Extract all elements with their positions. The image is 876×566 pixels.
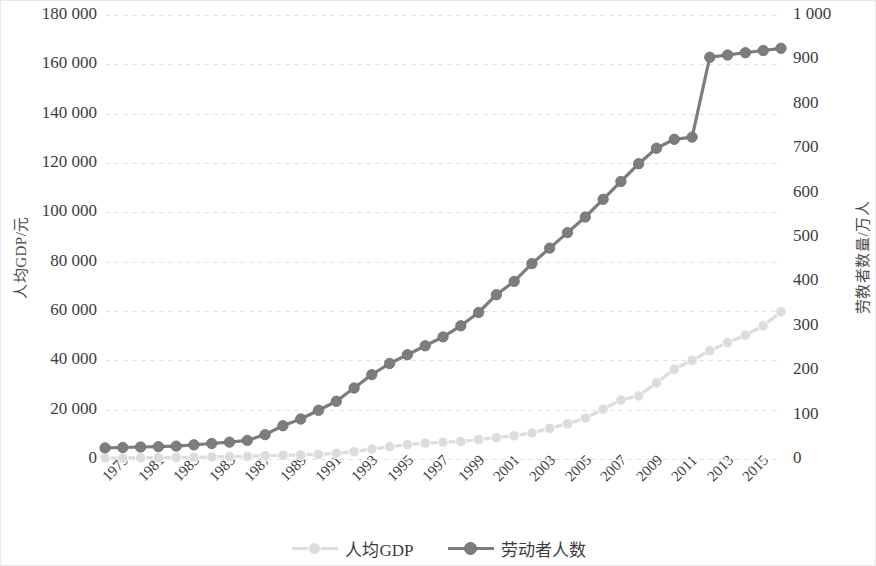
- left-axis-tick-label: 40 000: [1, 349, 97, 369]
- left-axis-tick-label: 160 000: [1, 53, 97, 73]
- left-axis-tick-label: 0: [1, 448, 97, 468]
- data-point: [313, 449, 323, 459]
- data-point: [491, 433, 501, 443]
- series-2: [100, 43, 786, 453]
- data-point: [278, 421, 288, 431]
- data-point: [260, 450, 270, 460]
- data-point: [207, 452, 217, 462]
- right-axis-title: 劳教者数量/万人: [851, 178, 872, 338]
- data-point: [384, 358, 394, 368]
- left-axis-tick-label: 60 000: [1, 300, 97, 320]
- data-point: [456, 436, 466, 446]
- data-point: [776, 307, 786, 317]
- data-point: [580, 212, 590, 222]
- data-point: [527, 258, 537, 268]
- legend-label: 劳动者人数: [501, 536, 586, 561]
- right-axis-tick-label: 400: [793, 270, 819, 290]
- data-point: [509, 276, 519, 286]
- data-point: [562, 419, 572, 429]
- data-point: [402, 350, 412, 360]
- data-point: [722, 337, 732, 347]
- left-axis-tick-label: 140 000: [1, 103, 97, 123]
- data-point: [669, 364, 679, 374]
- chart-figure: 人均GDP/元 劳教者数量/万人 180 000160 000140 00012…: [0, 0, 876, 566]
- left-axis-tick-label: 80 000: [1, 251, 97, 271]
- data-point: [473, 307, 483, 317]
- left-axis-tick-label: 100 000: [1, 201, 97, 221]
- data-point: [135, 442, 145, 452]
- left-axis-tick-label: 180 000: [1, 4, 97, 24]
- data-point: [562, 227, 572, 237]
- right-axis-tick-label: 900: [793, 48, 819, 68]
- data-point: [367, 369, 377, 379]
- data-point: [651, 378, 661, 388]
- data-point: [580, 413, 590, 423]
- data-point: [153, 453, 163, 463]
- gridline: [105, 459, 781, 460]
- data-point: [758, 45, 768, 55]
- data-point: [420, 341, 430, 351]
- right-axis-tick-label: 700: [793, 137, 819, 157]
- data-point: [758, 321, 768, 331]
- legend-item-1[interactable]: 人均GDP: [292, 536, 413, 561]
- data-point: [616, 176, 626, 186]
- data-point: [296, 414, 306, 424]
- data-point: [687, 355, 697, 365]
- data-point: [224, 437, 234, 447]
- data-point: [189, 440, 199, 450]
- legend-swatch-icon: [292, 541, 338, 555]
- data-point: [545, 423, 555, 433]
- data-point: [296, 450, 306, 460]
- data-point: [687, 132, 697, 142]
- legend-swatch-icon: [448, 541, 494, 555]
- data-point: [207, 438, 217, 448]
- data-point: [705, 52, 715, 62]
- data-point: [384, 442, 394, 452]
- right-axis-tick-label: 0: [793, 448, 802, 468]
- legend-item-2[interactable]: 劳动者人数: [448, 536, 586, 561]
- data-point: [367, 444, 377, 454]
- data-point: [100, 443, 110, 453]
- data-point: [616, 395, 626, 405]
- data-point: [598, 404, 608, 414]
- data-point: [331, 396, 341, 406]
- data-point: [438, 437, 448, 447]
- chart-legend: 人均GDP劳动者人数: [1, 529, 876, 566]
- data-point: [242, 435, 252, 445]
- data-point: [722, 50, 732, 60]
- data-point: [598, 194, 608, 204]
- data-point: [260, 429, 270, 439]
- data-point: [153, 441, 163, 451]
- data-point: [100, 453, 110, 463]
- data-point: [545, 243, 555, 253]
- data-point: [278, 450, 288, 460]
- data-point: [456, 321, 466, 331]
- right-axis-tick-label: 100: [793, 404, 819, 424]
- data-point: [509, 431, 519, 441]
- series-layer: [105, 15, 781, 459]
- data-point: [491, 290, 501, 300]
- data-point: [740, 330, 750, 340]
- data-point: [118, 442, 128, 452]
- legend-label: 人均GDP: [345, 536, 413, 561]
- series-1: [100, 307, 786, 464]
- plot-area: [105, 15, 781, 459]
- data-point: [740, 48, 750, 58]
- data-point: [438, 332, 448, 342]
- left-axis-tick-label: 20 000: [1, 399, 97, 419]
- data-point: [634, 391, 644, 401]
- data-point: [527, 428, 537, 438]
- series-line: [105, 48, 781, 448]
- data-point: [224, 451, 234, 461]
- data-point: [135, 453, 145, 463]
- right-axis-tick-label: 200: [793, 359, 819, 379]
- right-axis-tick-label: 500: [793, 226, 819, 246]
- left-axis-tick-label: 120 000: [1, 152, 97, 172]
- data-point: [402, 439, 412, 449]
- data-point: [473, 434, 483, 444]
- right-axis-tick-label: 1 000: [793, 4, 831, 24]
- right-axis-tick-label: 600: [793, 182, 819, 202]
- right-axis-tick-label: 300: [793, 315, 819, 335]
- data-point: [349, 383, 359, 393]
- data-point: [634, 159, 644, 169]
